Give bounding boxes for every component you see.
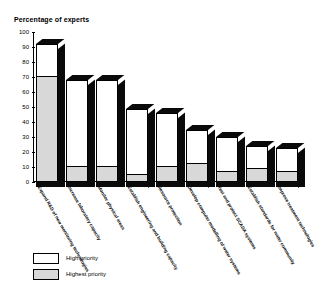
- bar-side-face: [298, 147, 305, 187]
- bar-side-face: [88, 80, 95, 187]
- y-axis-title: Percentage of experts: [14, 16, 89, 23]
- bar-segment-highest-priority: [187, 163, 207, 181]
- bar-series-container: [33, 32, 303, 182]
- bar: [156, 113, 178, 182]
- x-axis-category-label: Monitor physical areas: [97, 185, 126, 231]
- y-axis-tick-label: 30: [22, 134, 29, 140]
- y-axis-tick-label: 50: [22, 104, 29, 110]
- legend-label: Highest priority: [66, 271, 106, 277]
- bar-side-face: [208, 129, 215, 187]
- x-axis-category-label: Resource protection: [157, 185, 184, 226]
- x-axis-category-labels: Expand R&D of new monitoring technologie…: [33, 185, 303, 247]
- bar-front-face: [276, 148, 298, 183]
- bar-segment-highest-priority: [67, 166, 87, 181]
- legend-swatch-highest-priority: [33, 269, 59, 280]
- legend-item: Highest priority: [33, 266, 141, 282]
- bar-side-face: [268, 146, 275, 187]
- x-axis-category-label: Develop computer modelling of water syst…: [187, 185, 242, 275]
- bar: [246, 146, 268, 182]
- bar-front-face: [66, 80, 88, 182]
- bar: [276, 148, 298, 183]
- x-axis-category-label: Establish standards for water community: [247, 185, 296, 266]
- x-axis-category-label: Improve treatment technologies: [277, 185, 316, 248]
- y-axis-tick: [32, 182, 35, 183]
- bar-front-face: [216, 137, 238, 182]
- y-axis-tick-label: 10: [22, 164, 29, 170]
- bar-front-face: [36, 44, 58, 182]
- bar: [66, 80, 88, 182]
- bar-chart: Percentage of experts 010203040506070809…: [0, 0, 317, 290]
- legend-label: High priority: [66, 255, 98, 261]
- bar-front-face: [126, 109, 148, 183]
- chart-legend: High priority Highest priority: [33, 250, 141, 282]
- bar: [186, 130, 208, 183]
- bar-segment-highest-priority: [97, 166, 117, 181]
- bar-segment-highest-priority: [277, 171, 297, 182]
- bar-side-face: [178, 113, 185, 187]
- y-axis-tick-label: 80: [22, 59, 29, 65]
- y-axis-tick-label: 90: [22, 44, 29, 50]
- y-axis-tick-label: 100: [19, 29, 29, 35]
- plot-area: 0102030405060708090100: [33, 32, 303, 182]
- bar-segment-highest-priority: [247, 168, 267, 182]
- bar-front-face: [246, 146, 268, 182]
- bar-side-face: [148, 108, 155, 187]
- bar-segment-highest-priority: [127, 174, 147, 182]
- bar-segment-highest-priority: [217, 171, 237, 182]
- y-axis-tick-label: 20: [22, 149, 29, 155]
- y-axis-tick-label: 40: [22, 119, 29, 125]
- y-axis-tick-label: 60: [22, 89, 29, 95]
- bar: [216, 137, 238, 182]
- bar-side-face: [58, 44, 65, 187]
- bar: [36, 44, 58, 182]
- y-axis-tick-label: 70: [22, 74, 29, 80]
- y-axis-tick-label: 0: [26, 179, 29, 185]
- legend-item: High priority: [33, 250, 141, 266]
- bar-segment-highest-priority: [37, 76, 57, 181]
- bar-front-face: [156, 113, 178, 182]
- bar: [126, 109, 148, 183]
- legend-swatch-high-priority: [33, 253, 59, 264]
- bar-front-face: [96, 80, 118, 182]
- bar-side-face: [118, 80, 125, 187]
- bar: [96, 80, 118, 182]
- x-axis-category-label: Increase laboratory capacity: [67, 185, 102, 241]
- bar-segment-highest-priority: [157, 166, 177, 181]
- bar-side-face: [238, 137, 245, 187]
- bar-front-face: [186, 130, 208, 183]
